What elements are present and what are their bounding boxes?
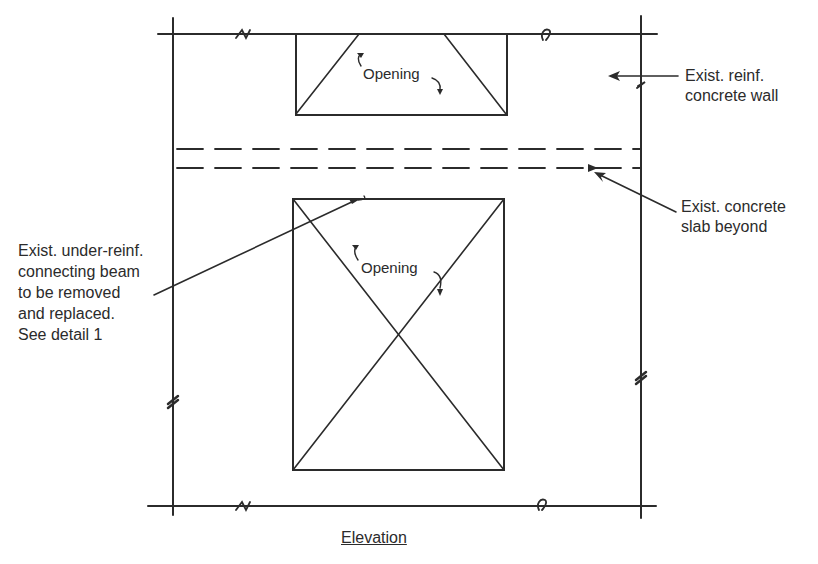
beam-callout-line: See detail 1 bbox=[18, 324, 143, 345]
wall-callout-line: Exist. reinf. bbox=[685, 66, 778, 86]
arrow-icon bbox=[352, 245, 359, 250]
slab-callout-line: slab beyond bbox=[681, 217, 786, 237]
beam-callout-line: to be removed bbox=[18, 282, 143, 303]
wall-callout-line: concrete wall bbox=[685, 86, 778, 106]
beam-callout: Exist. under-reinf. connecting beam to b… bbox=[18, 240, 143, 345]
lower-opening-label: Opening bbox=[361, 259, 418, 276]
beam-callout-line: Exist. under-reinf. bbox=[18, 240, 143, 261]
beam-callout-line: and replaced. bbox=[18, 303, 143, 324]
break-mark-icon bbox=[538, 500, 546, 510]
arrow-icon bbox=[437, 289, 443, 296]
drawing-title: Elevation bbox=[341, 529, 407, 547]
upper-opening-label: Opening bbox=[363, 65, 420, 82]
wall-callout: Exist. reinf. concrete wall bbox=[685, 66, 778, 106]
break-mark-icon bbox=[236, 30, 250, 38]
slab-callout-line: Exist. concrete bbox=[681, 197, 786, 217]
break-mark-icon bbox=[236, 502, 250, 510]
slab-callout: Exist. concrete slab beyond bbox=[681, 197, 786, 237]
arrow-icon bbox=[437, 89, 443, 95]
arrow-icon bbox=[588, 164, 598, 172]
beam-callout-line: connecting beam bbox=[18, 261, 143, 282]
